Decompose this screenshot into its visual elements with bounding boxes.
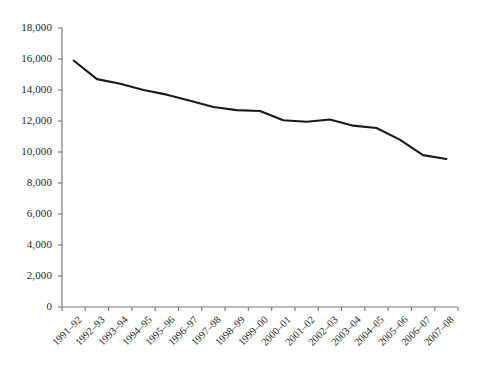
y-axis-tick-label: 16,000 (0, 53, 52, 64)
y-axis-tick-label: 12,000 (0, 115, 52, 126)
y-axis-tick-label: 14,000 (0, 84, 52, 95)
y-axis-tick-label: 0 (0, 301, 52, 312)
data-series-line (74, 61, 447, 159)
y-axis-tick-label: 8,000 (0, 177, 52, 188)
chart-plot-area (0, 0, 478, 368)
line-chart: 18,00016,00014,00012,00010,0008,0006,000… (0, 0, 478, 368)
y-axis-tick-label: 4,000 (0, 239, 52, 250)
y-axis-tick-label: 2,000 (0, 270, 52, 281)
y-axis-tick-label: 6,000 (0, 208, 52, 219)
y-axis-tick-label: 18,000 (0, 22, 52, 33)
y-axis-tick-label: 10,000 (0, 146, 52, 157)
